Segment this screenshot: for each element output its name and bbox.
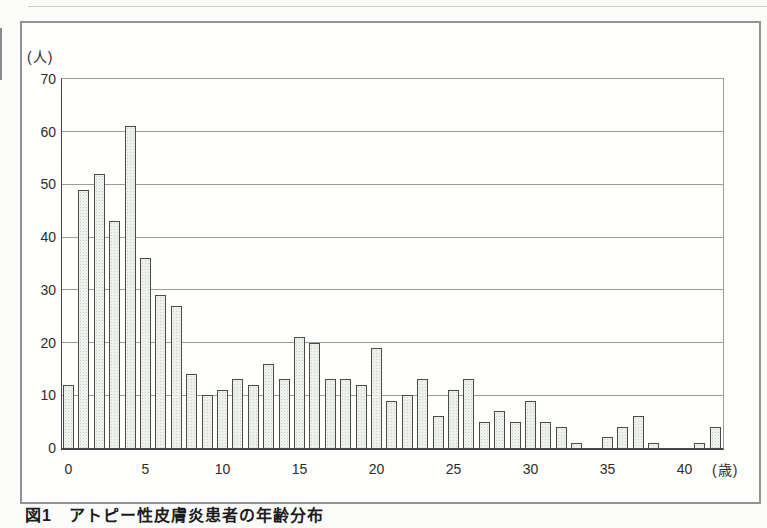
bar-age-22 bbox=[402, 395, 413, 448]
bar-age-12 bbox=[248, 385, 259, 448]
figure-caption: 図1 アトピー性皮膚炎患者の年齢分布 bbox=[25, 506, 745, 528]
bar-age-42 bbox=[710, 427, 721, 448]
bar-age-10 bbox=[217, 390, 228, 448]
bar-age-3 bbox=[109, 221, 120, 448]
bar-age-15 bbox=[294, 337, 305, 448]
bar-age-17 bbox=[325, 379, 336, 448]
bar-age-38 bbox=[648, 443, 659, 448]
bar-age-29 bbox=[510, 422, 521, 448]
bar-age-8 bbox=[186, 374, 197, 448]
x-tick-label-40: 40 bbox=[668, 460, 702, 478]
bar-age-0 bbox=[63, 385, 74, 448]
y-tick-label-20: 20 bbox=[16, 334, 56, 352]
y-tick-label-30: 30 bbox=[16, 281, 56, 299]
bar-age-4 bbox=[125, 126, 136, 448]
y-tick-label-70: 70 bbox=[16, 70, 56, 88]
bar-age-19 bbox=[356, 385, 367, 448]
bar-age-26 bbox=[463, 379, 474, 448]
bar-age-14 bbox=[279, 379, 290, 448]
x-tick-label-20: 20 bbox=[360, 460, 394, 478]
gridline-50 bbox=[62, 184, 723, 185]
scan-top-rule bbox=[28, 6, 767, 7]
bar-age-1 bbox=[78, 190, 89, 448]
plot-area bbox=[61, 78, 724, 450]
gridline-30 bbox=[62, 289, 723, 290]
x-tick-label-5: 5 bbox=[129, 460, 163, 478]
bar-age-37 bbox=[633, 416, 644, 448]
gridline-40 bbox=[62, 237, 723, 238]
y-axis-unit-label: (人) bbox=[27, 46, 53, 66]
bar-age-9 bbox=[202, 395, 213, 448]
bar-age-31 bbox=[540, 422, 551, 448]
y-tick-label-50: 50 bbox=[16, 175, 56, 193]
bar-age-21 bbox=[386, 401, 397, 448]
bar-age-18 bbox=[340, 379, 351, 448]
x-tick-label-35: 35 bbox=[591, 460, 625, 478]
bar-age-13 bbox=[263, 364, 274, 448]
x-tick-label-0: 0 bbox=[52, 460, 86, 478]
x-axis-unit-label: (歳) bbox=[712, 459, 738, 479]
x-tick-label-30: 30 bbox=[514, 460, 548, 478]
bar-age-6 bbox=[155, 295, 166, 448]
bar-age-30 bbox=[525, 401, 536, 448]
bar-age-28 bbox=[494, 411, 505, 448]
bar-age-35 bbox=[602, 437, 613, 448]
gridline-60 bbox=[62, 131, 723, 132]
bar-age-20 bbox=[371, 348, 382, 448]
y-tick-label-40: 40 bbox=[16, 228, 56, 246]
bar-age-33 bbox=[571, 443, 582, 448]
bar-age-16 bbox=[309, 343, 320, 448]
bar-age-36 bbox=[617, 427, 628, 448]
scan-edge-artifact bbox=[0, 28, 2, 80]
x-tick-label-15: 15 bbox=[283, 460, 317, 478]
bar-age-7 bbox=[171, 306, 182, 448]
bar-age-5 bbox=[140, 258, 151, 448]
bar-age-11 bbox=[232, 379, 243, 448]
bar-age-24 bbox=[433, 416, 444, 448]
bar-age-27 bbox=[479, 422, 490, 448]
y-tick-label-60: 60 bbox=[16, 123, 56, 141]
bar-age-41 bbox=[694, 443, 705, 448]
x-tick-label-10: 10 bbox=[206, 460, 240, 478]
y-tick-label-0: 0 bbox=[16, 439, 56, 457]
y-tick-label-10: 10 bbox=[16, 386, 56, 404]
x-tick-label-25: 25 bbox=[437, 460, 471, 478]
bar-age-25 bbox=[448, 390, 459, 448]
bar-age-23 bbox=[417, 379, 428, 448]
bar-age-32 bbox=[556, 427, 567, 448]
bar-age-2 bbox=[94, 174, 105, 448]
